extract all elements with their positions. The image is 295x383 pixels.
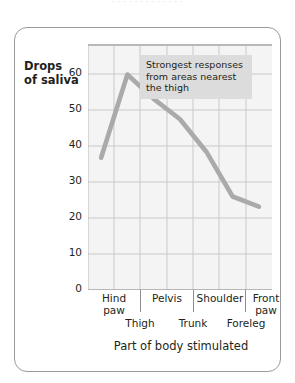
- x-tick-label-thigh: Thigh: [114, 318, 166, 330]
- x-tick-label-hind-paw: Hind paw: [88, 293, 140, 316]
- annotation-line-3: the thigh: [146, 82, 189, 93]
- y-tick-label-30: 30: [58, 174, 82, 186]
- x-tick-label-shoulder: Shoulder: [194, 293, 246, 305]
- x-tick-label-front-paw-line1: Front: [253, 292, 280, 304]
- x-tick-label-hind-paw-line1: Hind: [102, 292, 126, 304]
- x-tick-label-front-paw-line2: paw: [255, 304, 277, 316]
- x-tick-label-front-paw: Front paw: [246, 293, 286, 316]
- y-tick-label-0: 0: [58, 282, 82, 294]
- annotation-box: Strongest responses from areas nearest t…: [140, 55, 252, 99]
- annotation-line-2: from areas nearest: [146, 71, 236, 82]
- y-tick-label-60: 60: [58, 66, 82, 78]
- annotation-line-1: Strongest responses: [146, 59, 243, 70]
- line-chart: Drops of saliva 60 50 40 30 20 10 0: [0, 0, 295, 383]
- y-tick-label-10: 10: [58, 246, 82, 258]
- y-tick-label-40: 40: [58, 138, 82, 150]
- x-tick-label-foreleg: Foreleg: [220, 318, 272, 330]
- y-tick-label-20: 20: [58, 210, 82, 222]
- x-tick-label-hind-paw-line2: paw: [103, 304, 125, 316]
- x-axis-title: Part of body stimulated: [88, 339, 274, 353]
- x-tick-label-trunk: Trunk: [167, 318, 219, 330]
- y-axis-title-line1: Drops: [24, 59, 62, 73]
- x-tick-label-pelvis: Pelvis: [141, 293, 193, 305]
- y-tick-label-50: 50: [58, 102, 82, 114]
